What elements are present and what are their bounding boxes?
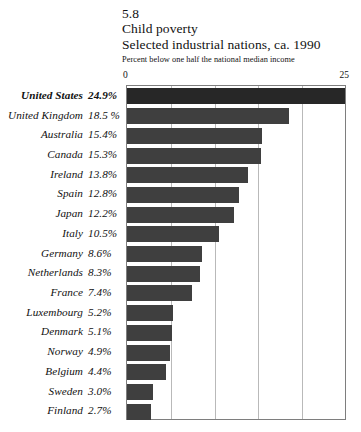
category-label: Belgium4.4%: [0, 361, 122, 382]
category-label: United States24.9%: [0, 85, 122, 106]
category-value: 15.3%: [88, 148, 122, 161]
category-value: 4.4%: [88, 365, 122, 378]
category-value: 2.7%: [88, 404, 122, 417]
bar-row: [127, 303, 345, 324]
bar-row: [127, 382, 345, 403]
bar: [127, 187, 239, 203]
figure-number: 5.8: [122, 6, 354, 21]
bar: [127, 226, 219, 242]
category-name: Australia: [41, 128, 83, 141]
bar-row: [127, 125, 345, 146]
category-label: Netherlands8.3%: [0, 262, 122, 283]
bar-row: [127, 86, 345, 107]
bar: [127, 364, 166, 380]
category-name: Belgium: [45, 365, 83, 378]
bar: [127, 207, 234, 223]
category-value: 8.3%: [88, 266, 122, 279]
chart-caption: Percent below one half the national medi…: [122, 54, 354, 65]
category-value: 3.0%: [88, 385, 122, 398]
category-label: Japan12.2%: [0, 203, 122, 224]
bars: [127, 86, 345, 419]
bar-row: [127, 224, 345, 245]
category-value: 15.4%: [88, 128, 122, 141]
category-label: Spain12.8%: [0, 184, 122, 205]
bar-row: [127, 322, 345, 343]
category-name: United States: [21, 89, 83, 102]
category-name: Denmark: [41, 325, 83, 338]
category-name: Germany: [41, 247, 83, 260]
bar: [127, 88, 345, 104]
x-axis-tick-labels: 0 25: [126, 70, 347, 83]
bar-row: [127, 362, 345, 383]
category-name: Netherlands: [28, 266, 83, 279]
bar: [127, 404, 151, 420]
category-label: United Kingdom18.5 %: [0, 105, 122, 126]
category-label: Australia15.4%: [0, 124, 122, 145]
bar: [127, 384, 153, 400]
bar: [127, 266, 200, 282]
category-name: Sweden: [49, 385, 83, 398]
bar-row: [127, 263, 345, 284]
category-value: 12.2%: [88, 207, 122, 220]
category-name: Canada: [47, 148, 83, 161]
bar-row: [127, 204, 345, 225]
bar: [127, 108, 289, 124]
category-name: Spain: [57, 187, 83, 200]
category-labels: United States24.9%United Kingdom18.5 %Au…: [0, 85, 122, 420]
category-name: Norway: [47, 345, 83, 358]
bar: [127, 128, 262, 144]
category-label: Norway4.9%: [0, 341, 122, 362]
category-value: 5.1%: [88, 325, 122, 338]
category-name: Ireland: [50, 168, 83, 181]
bar: [127, 285, 192, 301]
category-name: United Kingdom: [8, 109, 83, 122]
chart-subtitle: Selected industrial nations, ca. 1990: [122, 37, 354, 53]
bar: [127, 345, 170, 361]
category-value: 18.5 %: [88, 109, 122, 122]
category-name: France: [50, 286, 83, 299]
bar-row: [127, 401, 345, 422]
category-label: Canada15.3%: [0, 144, 122, 165]
bar-row: [127, 185, 345, 206]
category-label: Germany8.6%: [0, 243, 122, 264]
category-value: 24.9%: [88, 89, 122, 102]
bar: [127, 325, 172, 341]
bar: [127, 148, 261, 164]
category-label: Denmark5.1%: [0, 321, 122, 342]
category-value: 7.4%: [88, 286, 122, 299]
category-value: 4.9%: [88, 345, 122, 358]
bar: [127, 305, 173, 321]
x-axis-tick-max: 25: [340, 70, 350, 81]
chart-header: 5.8 Child poverty Selected industrial na…: [122, 6, 354, 65]
bar-row: [127, 283, 345, 304]
category-value: 12.8%: [88, 187, 122, 200]
bar-row: [127, 165, 345, 186]
x-axis-tick-min: 0: [123, 70, 128, 81]
bar-row: [127, 342, 345, 363]
plot-area: [126, 85, 346, 420]
bar-row: [127, 244, 345, 265]
bar: [127, 167, 248, 183]
bar-row: [127, 106, 345, 127]
category-name: Italy: [62, 227, 83, 240]
category-label: Italy10.5%: [0, 223, 122, 244]
category-value: 10.5%: [88, 227, 122, 240]
category-label: Finland2.7%: [0, 400, 122, 421]
category-value: 8.6%: [88, 247, 122, 260]
category-value: 13.8%: [88, 168, 122, 181]
category-label: Ireland13.8%: [0, 164, 122, 185]
category-name: Japan: [55, 207, 83, 220]
category-label: France7.4%: [0, 282, 122, 303]
category-label: Sweden3.0%: [0, 381, 122, 402]
category-value: 5.2%: [88, 306, 122, 319]
bar: [127, 246, 202, 262]
bar-row: [127, 145, 345, 166]
category-label: Luxembourg5.2%: [0, 302, 122, 323]
category-name: Finland: [47, 404, 83, 417]
category-name: Luxembourg: [26, 306, 83, 319]
chart-title: Child poverty: [122, 21, 354, 37]
